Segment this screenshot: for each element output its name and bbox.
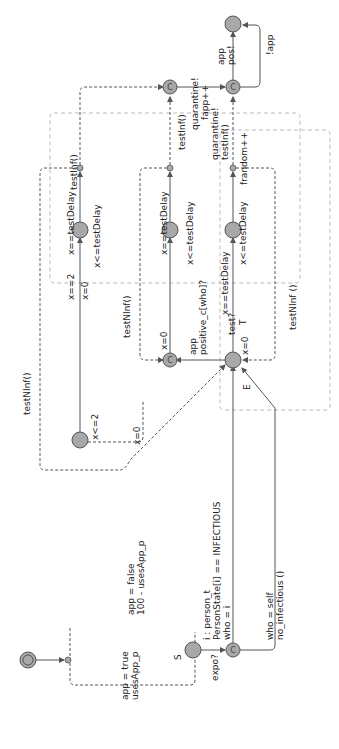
svg-text:usesApp_p: usesApp_p — [130, 651, 140, 700]
svg-text:100 - usesApp_p: 100 - usesApp_p — [136, 540, 146, 615]
svg-text:x==testDelay: x==testDelay — [66, 191, 76, 255]
svg-text:fapp++: fapp++ — [200, 85, 210, 120]
svg-text:testNInf(): testNInf() — [22, 372, 32, 415]
svg-text:x<=2: x<=2 — [90, 414, 100, 440]
svg-text:x=0: x=0 — [132, 426, 142, 445]
svg-text:positive_c[who]?: positive_c[who]? — [198, 280, 208, 355]
svg-text:C: C — [230, 83, 236, 92]
svg-text:testInf(): testInf() — [177, 114, 187, 150]
svg-text:testInf(): testInf() — [220, 124, 230, 160]
svg-text:no_infectious (): no_infectious () — [275, 571, 285, 640]
svg-text:C: C — [167, 83, 173, 92]
svg-text:who = self: who = self — [265, 591, 275, 640]
location-E[interactable] — [225, 352, 241, 368]
svg-text:quarantine!: quarantine! — [210, 107, 220, 160]
svg-text:C: C — [167, 356, 173, 365]
branchpoint-init — [65, 657, 71, 663]
svg-text:expo?: expo? — [210, 654, 220, 681]
svg-text:x=0: x=0 — [240, 336, 250, 355]
svg-text:app: app — [188, 338, 198, 355]
svg-text:x<=testDelay: x<=testDelay — [238, 201, 248, 265]
svg-text:!app: !app — [265, 34, 275, 55]
svg-text:quarantine!: quarantine! — [190, 77, 200, 130]
initial-location-inner — [23, 655, 33, 665]
svg-text:testNInf (): testNInf () — [288, 285, 298, 330]
svg-text:test?: test? — [227, 313, 237, 335]
automaton-diagram: C C C C app = true usesApp_p app = false… — [0, 0, 339, 749]
branchpoint-2 — [167, 165, 173, 171]
svg-text:i : person_t: i : person_t — [202, 589, 212, 640]
location-wait[interactable] — [72, 432, 88, 448]
svg-text:S: S — [173, 654, 183, 660]
svg-text:x==testDelay: x==testDelay — [220, 251, 230, 315]
svg-text:who = i: who = i — [222, 606, 232, 640]
svg-text:app = true: app = true — [120, 651, 130, 700]
location-final[interactable] — [225, 16, 241, 32]
branchpoint-T — [230, 165, 236, 171]
svg-text:x<=testDelay: x<=testDelay — [92, 204, 102, 268]
svg-text:T: T — [238, 319, 248, 326]
branchpoint-box-1 — [50, 113, 300, 283]
svg-text:app: app — [216, 48, 226, 65]
svg-text:x==2: x==2 — [66, 274, 76, 300]
svg-text:frandom++: frandom++ — [239, 132, 249, 185]
svg-text:x=0: x=0 — [80, 281, 90, 300]
svg-text:app = false: app = false — [126, 563, 136, 615]
svg-text:x==testDelay: x==testDelay — [159, 191, 169, 255]
svg-text:testNInf(): testNInf() — [122, 295, 132, 338]
svg-text:E: E — [242, 384, 252, 390]
svg-text:x<=testDelay: x<=testDelay — [185, 201, 195, 265]
committed-marker: C — [230, 646, 236, 655]
svg-text:pos!: pos! — [226, 45, 236, 65]
svg-text:testInf(): testInf() — [69, 154, 79, 190]
svg-text:PersonState[i] == INFECTIOUS: PersonState[i] == INFECTIOUS — [212, 501, 222, 640]
location-S[interactable] — [185, 642, 201, 658]
svg-text:x=0: x=0 — [159, 331, 169, 350]
